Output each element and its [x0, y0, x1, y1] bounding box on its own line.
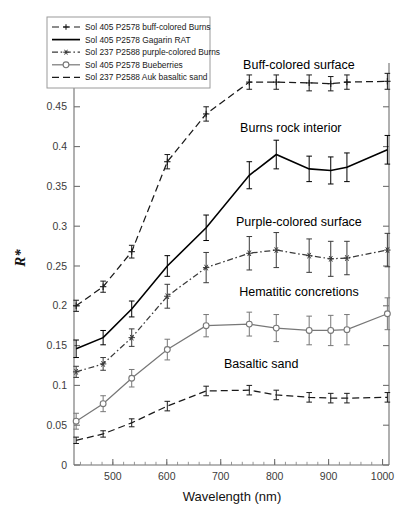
circle-marker	[246, 321, 252, 327]
legend-label: Sol 237 P2588 purple-colored Burns	[85, 47, 220, 57]
circle-marker	[328, 328, 334, 334]
y-tick-label: 0.25	[47, 260, 68, 272]
y-tick-label: 0.15	[47, 339, 68, 351]
legend-label: Sol 405 P2578 buff-colored Burns	[85, 22, 211, 32]
circle-marker	[73, 418, 79, 424]
y-tick-label: 0.35	[47, 180, 68, 192]
circle-marker	[203, 323, 209, 329]
circle-marker	[129, 375, 135, 381]
y-tick-label: 0.2	[52, 299, 67, 311]
circle-marker	[63, 62, 69, 68]
x-tick-label: 700	[212, 470, 230, 482]
x-tick-label: 600	[158, 470, 176, 482]
y-tick-label: 0	[61, 459, 67, 471]
x-tick-label: 800	[266, 470, 284, 482]
x-tick-label: 900	[320, 470, 338, 482]
curve-annotation: Buff-colored surface	[243, 58, 355, 72]
curve-annotation: Hematitic concretions	[239, 285, 359, 299]
legend-label: Sol 405 P2578 Gagarin RAT	[85, 35, 191, 45]
y-tick-label: 0.05	[47, 419, 68, 431]
circle-marker	[164, 347, 170, 353]
y-tick-label: 0.45	[47, 100, 68, 112]
circle-marker	[100, 401, 106, 407]
circle-marker	[273, 325, 279, 331]
legend-label: Sol 405 P2578 Bueberries	[85, 60, 183, 70]
y-tick-label: 0.1	[52, 379, 67, 391]
x-tick-label: 500	[104, 470, 122, 482]
x-tick-label: 1000	[371, 470, 395, 482]
curve-annotation: Purple-colored surface	[236, 215, 362, 229]
y-tick-label: 0.4	[52, 140, 67, 152]
legend: Sol 405 P2578 buff-colored BurnsSol 405 …	[47, 17, 220, 88]
spectral-reflectance-chart: 5006007008009001000 00.050.10.150.20.250…	[0, 0, 400, 515]
curve-annotation: Burns rock interior	[240, 121, 341, 135]
x-axis-title: Wavelength (nm)	[183, 489, 282, 504]
circle-marker	[384, 311, 390, 317]
y-axis-title: R*	[12, 249, 28, 268]
legend-label: Sol 237 P2588 Auk basaltic sand	[85, 72, 208, 82]
circle-marker	[306, 328, 312, 334]
y-tick-label: 0.3	[52, 220, 67, 232]
circle-marker	[344, 327, 350, 333]
curve-annotation: Basaltic sand	[224, 357, 298, 371]
